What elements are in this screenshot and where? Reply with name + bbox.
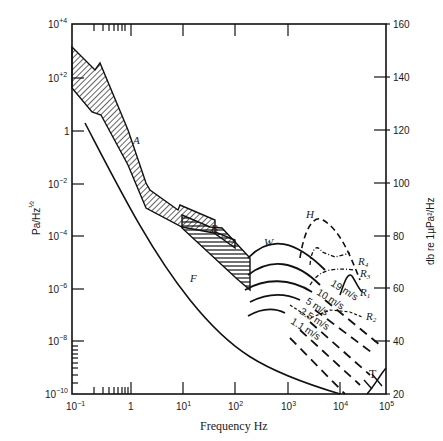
label-H: H: [305, 208, 315, 220]
svg-text:80: 80: [393, 231, 405, 242]
svg-text:104: 104: [333, 400, 348, 412]
svg-text:140: 140: [393, 72, 410, 83]
svg-text:1: 1: [128, 401, 134, 412]
svg-text:10+4: 10+4: [48, 17, 67, 30]
x-axis-ticks: [94, 382, 340, 394]
curve-H: [300, 219, 360, 280]
svg-text:100: 100: [393, 178, 410, 189]
plot-frame: [72, 24, 386, 394]
chart-canvas: 10+4 10+2 1 10−2 10−4 10−6 10−8 10−10 16…: [0, 0, 443, 441]
x-axis-top-ticks: [94, 24, 288, 36]
svg-text:120: 120: [393, 125, 410, 136]
x-axis-title: Frequency Hz: [200, 419, 268, 433]
svg-text:10−2: 10−2: [48, 177, 67, 190]
svg-text:40: 40: [393, 336, 405, 347]
y-axis-left-ticks: [72, 78, 84, 383]
svg-text:160: 160: [393, 19, 410, 30]
svg-text:db re 1µPa²/Hz: db re 1µPa²/Hz: [425, 198, 436, 265]
svg-text:105: 105: [379, 400, 394, 412]
label-B: B: [211, 222, 218, 234]
svg-text:102: 102: [228, 400, 243, 412]
y-axis-left-labels: 10+4 10+2 1 10−2 10−4 10−6 10−8 10−10: [45, 17, 70, 400]
label-R3: R3: [359, 267, 371, 281]
svg-text:101: 101: [176, 400, 191, 412]
y-axis-right-ticks: [374, 24, 390, 394]
svg-text:60: 60: [393, 283, 405, 294]
label-T: T: [369, 367, 377, 381]
svg-text:1: 1: [64, 126, 70, 137]
svg-text:Pa/Hz½: Pa/Hz½: [27, 201, 42, 235]
curve-F: [85, 123, 340, 394]
svg-text:10+2: 10+2: [48, 71, 67, 84]
svg-text:20: 20: [393, 389, 405, 400]
svg-text:10−8: 10−8: [48, 334, 67, 347]
x-axis-labels: 10−1 1 101 102 103 104 105: [66, 400, 394, 412]
svg-text:10−6: 10−6: [48, 282, 67, 295]
label-R2: R2: [365, 310, 377, 324]
label-W: W: [264, 236, 274, 248]
label-F: F: [189, 272, 197, 284]
label-A: A: [132, 134, 140, 146]
svg-text:103: 103: [281, 400, 296, 412]
y-axis-right-labels: 160 140 120 100 80 60 40 20: [393, 19, 410, 400]
svg-text:10−4: 10−4: [48, 229, 67, 242]
svg-text:10−10: 10−10: [45, 387, 68, 400]
label-R1: R1: [359, 286, 370, 300]
y-axis-left-title: Pa/Hz½: [27, 201, 42, 235]
band-A: [72, 47, 235, 248]
svg-text:10−1: 10−1: [66, 400, 85, 412]
y-axis-right-title: db re 1µPa²/Hz: [425, 198, 436, 265]
